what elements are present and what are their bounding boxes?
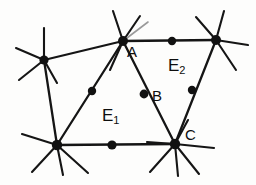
region-label-subscript: 1: [113, 114, 119, 126]
region-label-e1: E1: [102, 107, 119, 126]
top-right-vertex: [211, 35, 221, 45]
midpoint-left-diagonal: [88, 87, 96, 95]
figure-canvas: ABCE1E2: [0, 0, 256, 185]
midpoint-top-edge: [168, 37, 176, 45]
region-label-subscript: 2: [179, 64, 185, 76]
region-label-base: E: [168, 56, 179, 75]
stub-c-right: [175, 144, 214, 148]
region-label-e2: E2: [168, 57, 185, 76]
stubs-group: [16, 11, 248, 176]
midpoint-bottom-edge: [107, 140, 116, 149]
stub-bottomleft-left: [22, 134, 57, 145]
midpoint-b: [140, 90, 149, 99]
edge-topleft-to-a: [44, 41, 123, 60]
top-left-vertex: [39, 55, 48, 64]
vertex-c: [170, 139, 180, 149]
midpoint-right-edge: [188, 86, 196, 94]
point-label-a: A: [127, 44, 137, 59]
stub-c-downleft: [150, 144, 175, 172]
region-label-base: E: [102, 106, 113, 125]
stub-c-downright: [175, 144, 199, 174]
bottom-left-vertex: [52, 140, 62, 150]
graph-diagram-svg: [0, 0, 256, 185]
stub-topleft-downleft: [19, 60, 44, 80]
point-label-b: B: [152, 88, 162, 103]
point-label-c: C: [185, 127, 196, 142]
stub-bottomleft-downleft: [32, 145, 57, 172]
stub-topright-downright: [216, 40, 236, 70]
